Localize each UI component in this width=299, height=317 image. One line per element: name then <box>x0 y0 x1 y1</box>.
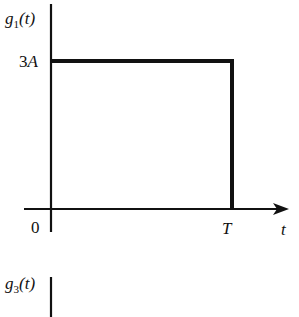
plot-g3: g3(t) <box>5 274 51 317</box>
x-axis-label: t <box>281 220 287 239</box>
pulse-waveform <box>51 61 232 209</box>
plot-g1: g1(t) 3A 0 T t <box>5 4 289 239</box>
g1-ylabel: g1(t) <box>5 9 35 30</box>
signal-diagram: g1(t) 3A 0 T t g3(t) <box>0 0 299 317</box>
g3-ylabel: g3(t) <box>5 274 35 295</box>
level-label: 3A <box>19 52 39 71</box>
t-end-label: T <box>222 219 233 238</box>
origin-label: 0 <box>31 218 40 237</box>
